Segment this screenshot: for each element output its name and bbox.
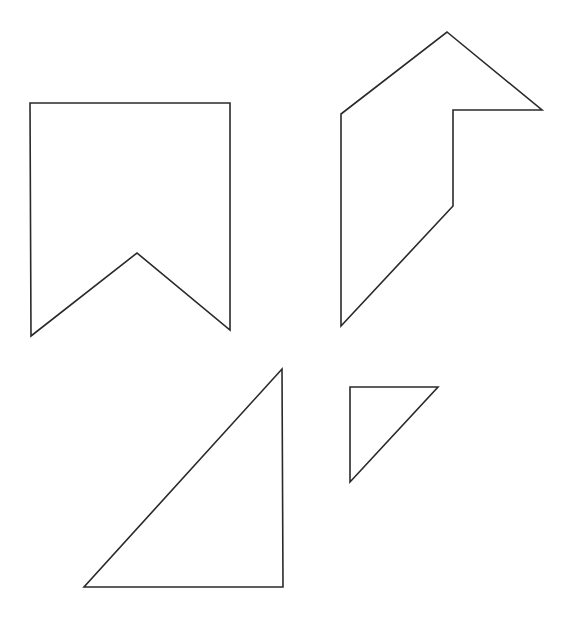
arrow-hexagon: [341, 32, 542, 326]
small-right-triangle: [350, 387, 438, 482]
banner-pentagon: [30, 103, 230, 336]
large-right-triangle: [84, 369, 283, 587]
diagram-canvas: [0, 0, 565, 617]
